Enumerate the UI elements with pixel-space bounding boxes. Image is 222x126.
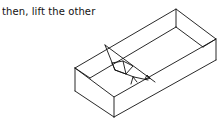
inner-floor-right <box>203 39 216 47</box>
inner-floor-back-left <box>90 27 176 78</box>
illustration-canvas: then, lift the other <box>0 0 222 126</box>
inner-floor-left <box>75 68 90 78</box>
inner-floor-back-right <box>176 27 203 47</box>
box-diagram <box>0 0 222 126</box>
paper-fold <box>105 45 155 84</box>
box-bottom-left <box>75 91 114 117</box>
box-top-rim <box>75 9 216 97</box>
